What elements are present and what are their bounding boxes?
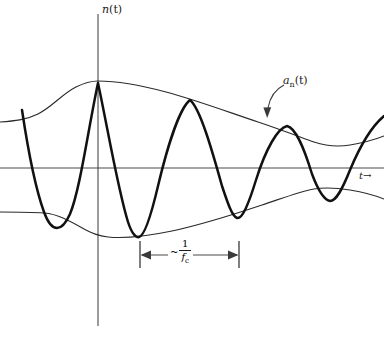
envelope-label: an(t) <box>283 75 308 89</box>
upper-envelope-curve <box>0 81 384 146</box>
figure-canvas <box>0 0 384 338</box>
period-left-arrowhead <box>141 251 152 260</box>
period-numerator: 1 <box>180 239 190 250</box>
period-label: ~ 1 fc <box>168 239 193 264</box>
envelope-pointer-arrowhead <box>263 107 271 118</box>
x-axis-label: t→ <box>359 171 371 181</box>
period-denominator: fc <box>179 251 191 264</box>
period-tilde: ~ <box>170 246 178 257</box>
period-fraction: 1 fc <box>179 239 191 264</box>
envelope-label-arg: (t) <box>295 74 308 87</box>
figure-container: n(t) an(t) t→ ~ 1 fc <box>0 0 384 338</box>
y-axis-label-arg: (t) <box>109 3 122 16</box>
lower-envelope-curve <box>0 188 384 238</box>
x-axis-label-arrow: → <box>363 170 371 181</box>
noise-waveform-curve <box>22 83 384 237</box>
period-right-arrowhead <box>228 251 239 260</box>
envelope-pointer-line <box>268 85 284 108</box>
y-axis-label: n(t) <box>102 4 122 15</box>
period-denominator-subscript: c <box>185 256 189 265</box>
